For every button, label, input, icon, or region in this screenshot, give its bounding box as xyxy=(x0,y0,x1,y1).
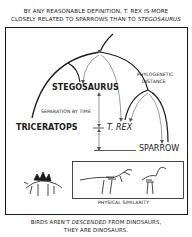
trex-skeleton-icon xyxy=(80,169,132,194)
caption-line-2: they are dinosaurs. xyxy=(0,228,192,233)
arrow-phylo-trex xyxy=(131,93,148,120)
label-distance: Distance xyxy=(142,80,166,85)
arrow-to-stegosaurus xyxy=(83,55,99,82)
label-trex: T. Rex xyxy=(107,124,132,132)
label-separation-by-time: Separation by time xyxy=(41,110,91,115)
caption-line-1: Birds aren't descended from dinosaurs, xyxy=(0,220,192,225)
label-stegosaurus: Stegosaurus xyxy=(52,84,119,92)
caption-text-a: Birds aren't xyxy=(31,219,72,225)
tree-branch-stegosaurus xyxy=(68,63,80,82)
physical-similarity-box xyxy=(73,162,184,199)
label-triceratops: Triceratops xyxy=(16,124,78,132)
panel-frame xyxy=(6,28,188,215)
caption-text-c: from dinosaurs, xyxy=(106,219,161,225)
label-physical-similarity: Physical similarity xyxy=(98,201,149,206)
label-sparrow: Sparrow xyxy=(139,145,179,153)
tree-root-branch xyxy=(100,34,113,52)
comic-drawing xyxy=(0,0,192,237)
tree-node xyxy=(98,50,101,53)
tree-branch-sparrow xyxy=(148,90,168,142)
caption-emphasis: descended xyxy=(72,219,107,225)
label-phylogenetic: Phylogenetic xyxy=(137,73,173,78)
sparrow-skeleton-icon xyxy=(142,167,166,194)
stegosaurus-skeleton-icon xyxy=(24,172,62,196)
